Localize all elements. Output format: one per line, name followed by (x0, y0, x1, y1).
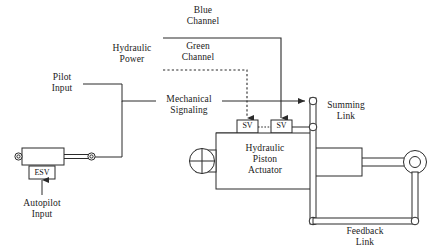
pilot-input-line2: Input (41, 83, 83, 94)
actuator-line2: Piston (233, 154, 297, 165)
label-mechanical-signaling: Mechanical Signaling (156, 94, 222, 116)
mechanical-signaling-line2: Signaling (156, 105, 222, 116)
mechanical-signaling-line1: Mechanical (156, 94, 222, 105)
pilot-input-line1: Pilot (41, 72, 83, 83)
hydraulic-actuator-diagram: Blue Channel Green Channel Hydraulic Pow… (0, 0, 442, 249)
blue-channel-line2: Channel (173, 16, 233, 27)
sv-left-label: SV (237, 121, 258, 131)
summing-link-line1: Summing (319, 100, 373, 111)
hydraulic-power-line1: Hydraulic (100, 43, 164, 54)
autopilot-input-line2: Input (13, 209, 71, 220)
feedback-link-bar (313, 172, 419, 225)
sv-right-label: SV (271, 121, 292, 131)
actuator-line3: Actuator (233, 165, 297, 176)
green-channel-line2: Channel (168, 52, 228, 63)
actuator-output-rod (314, 148, 427, 176)
summing-link-line2: Link (319, 111, 373, 122)
sv-right-label-text: SV (276, 121, 286, 130)
esv-actuator (15, 148, 95, 195)
actuator-line1: Hydraulic (233, 143, 297, 154)
blue-channel-line1: Blue (173, 5, 233, 16)
sv-left-label-text: SV (242, 121, 252, 130)
label-summing-link: Summing Link (319, 100, 373, 122)
label-hydraulic-piston-actuator: Hydraulic Piston Actuator (233, 143, 297, 176)
sv-valve-group (216, 120, 313, 133)
feedback-link-line2: Link (337, 237, 393, 248)
summing-link-bar (309, 97, 317, 225)
green-channel-line1: Green (168, 41, 228, 52)
autopilot-input-line1: Autopilot (13, 198, 71, 209)
label-blue-channel: Blue Channel (173, 5, 233, 27)
label-hydraulic-power: Hydraulic Power (100, 43, 164, 65)
label-autopilot-input: Autopilot Input (13, 198, 71, 220)
label-feedback-link: Feedback Link (337, 226, 393, 248)
esv-label: ESV (29, 168, 55, 178)
label-pilot-input: Pilot Input (41, 72, 83, 94)
hydraulic-power-line2: Power (100, 54, 164, 65)
esv-label-text: ESV (34, 168, 49, 177)
label-green-channel: Green Channel (168, 41, 228, 63)
feedback-link-line1: Feedback (337, 226, 393, 237)
